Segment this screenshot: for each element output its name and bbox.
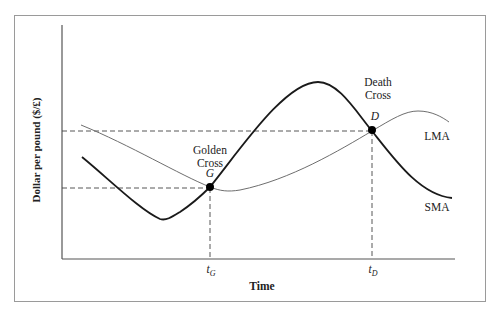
x-tick-td: tD [369, 263, 378, 278]
golden-cross-label-line1: Golden [185, 144, 235, 157]
lma-line [81, 111, 449, 191]
death-cross-label-line2: Cross [353, 89, 403, 102]
death-cross-point-label: D [368, 110, 382, 123]
golden-cross-point-label: G [203, 167, 217, 180]
death-cross-label-line1: Death [353, 76, 403, 89]
sma-line [82, 82, 452, 220]
y-axis-label: Dollar per pound ($/£) [30, 97, 42, 202]
death-cross-point [368, 126, 376, 134]
sma-legend-label: SMA [417, 201, 457, 214]
x-axis-label: Time [249, 280, 274, 292]
chart-plot [0, 0, 500, 314]
death-cross-label: Death Cross [353, 76, 403, 102]
x-tick-tg: tG [207, 263, 216, 278]
lma-legend-label: LMA [417, 130, 457, 143]
golden-cross-point [206, 183, 214, 191]
